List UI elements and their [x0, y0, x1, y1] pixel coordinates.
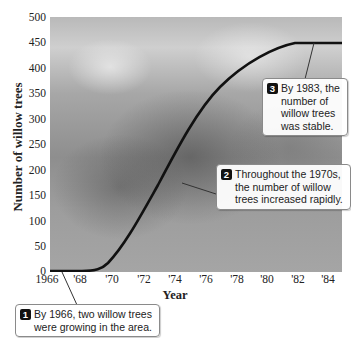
x-tick: 1966	[36, 273, 59, 285]
x-tick: '70	[105, 273, 119, 285]
callout-text: was stable.	[281, 120, 342, 133]
number-badge-1: 1	[20, 309, 31, 320]
callout-text: willow trees	[281, 107, 342, 120]
x-tick: '76	[199, 273, 213, 285]
x-tick: '74	[168, 273, 182, 285]
x-axis-label: Year	[163, 288, 188, 303]
y-tick: 50	[16, 240, 46, 252]
x-tick: '72	[137, 273, 151, 285]
y-axis-label: Number of willow trees	[11, 77, 25, 217]
y-tick: 500	[16, 11, 46, 23]
callout-text: By 1966, two willow trees	[34, 308, 154, 321]
willow-growth-curve	[50, 17, 342, 272]
y-tick: 450	[16, 36, 46, 48]
x-tick: '78	[230, 273, 244, 285]
callout-text: were growing in the area.	[34, 321, 154, 334]
callout-text: trees increased rapidly.	[235, 193, 345, 206]
callout-text: By 1983, the	[281, 82, 342, 95]
number-badge-2: 2	[221, 169, 232, 180]
x-tick: '68	[73, 273, 87, 285]
callout-3: 3 By 1983, the number of willow trees wa…	[262, 78, 348, 136]
x-tick: '84	[321, 273, 335, 285]
callout-text: the number of willow	[235, 181, 345, 194]
y-tick: 400	[16, 62, 46, 74]
callout-2: 2 Throughout the 1970s, the number of wi…	[216, 164, 351, 210]
x-tick: '80	[260, 273, 274, 285]
callout-text: number of	[281, 95, 342, 108]
plot-area	[50, 17, 342, 272]
callout-1: 1 By 1966, two willow trees were growing…	[15, 304, 160, 337]
x-tick: '82	[291, 273, 305, 285]
number-badge-3: 3	[267, 83, 278, 94]
callout-text: Throughout the 1970s,	[235, 168, 345, 181]
